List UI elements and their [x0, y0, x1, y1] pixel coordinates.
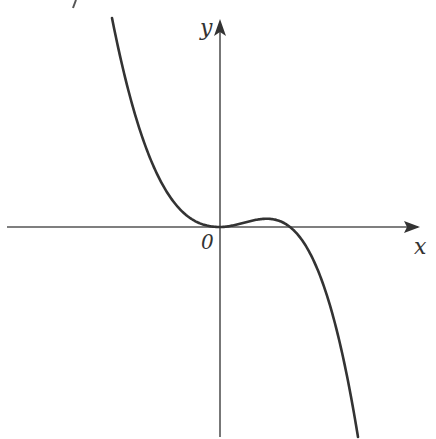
graph-canvas: [0, 0, 436, 439]
x-axis-label: x: [414, 236, 426, 258]
y-axis-label: y: [200, 17, 212, 39]
graph-figure: y x 0: [0, 0, 436, 439]
corner-mark: [73, 0, 76, 8]
origin-label: 0: [201, 232, 214, 252]
